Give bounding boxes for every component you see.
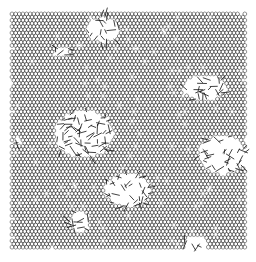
lattice-bonds <box>10 12 246 249</box>
honeycomb-lattice-image <box>0 0 256 262</box>
lattice-figure <box>0 0 256 262</box>
